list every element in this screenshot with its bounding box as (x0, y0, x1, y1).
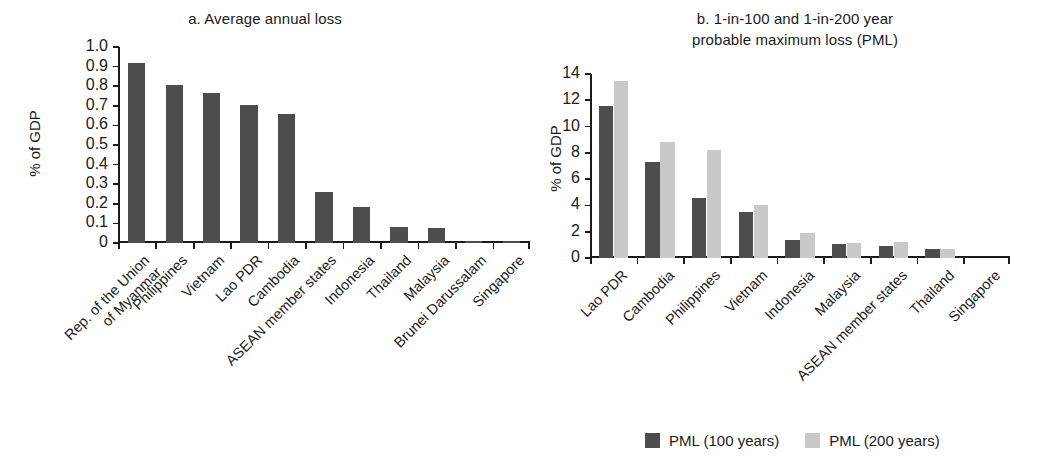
bar (614, 81, 628, 258)
y-axis-tick (113, 203, 119, 205)
x-axis-tick (305, 242, 307, 249)
bar (503, 241, 520, 243)
y-axis-tick (113, 105, 119, 107)
x-axis-tick (418, 242, 420, 249)
bar (692, 198, 706, 258)
bar (203, 93, 220, 243)
legend-label: PML (200 years) (829, 432, 939, 449)
bar (894, 242, 908, 258)
y-axis-tick (113, 164, 119, 166)
bar (940, 249, 954, 258)
bar (660, 142, 674, 258)
bar (832, 244, 846, 258)
bar (599, 106, 613, 258)
bar (785, 240, 799, 258)
x-axis-tick (343, 242, 345, 249)
y-axis-tick-label: 0 (62, 233, 108, 251)
legend: PML (100 years) PML (200 years) (645, 432, 940, 449)
x-axis-tick (917, 257, 919, 264)
x-axis-tick (268, 242, 270, 249)
x-axis-tick (193, 242, 195, 249)
y-axis-tick-label: 0.8 (62, 76, 108, 94)
chart-b-title: b. 1-in-100 and 1-in-200 year probable m… (570, 8, 1020, 50)
chart-b-plot-area: 14121086420Lao PDRCambodiaPhilippinesVie… (590, 74, 1010, 258)
chart-a-plot-area: 1.00.90.80.70.60.50.40.30.20.10Rep. of t… (118, 47, 530, 243)
x-axis-tick (777, 257, 779, 264)
y-axis-tick (585, 73, 591, 75)
x-axis-tick (870, 257, 872, 264)
bar (465, 241, 482, 243)
y-axis-tick (113, 223, 119, 225)
bar (390, 227, 407, 243)
y-axis-tick (585, 231, 591, 233)
y-axis-tick (113, 183, 119, 185)
y-axis-tick-label: 1.0 (62, 37, 108, 55)
x-axis-tick (455, 242, 457, 249)
bar (353, 207, 370, 243)
y-axis-tick (113, 66, 119, 68)
y-axis-tick-label: 0.1 (62, 213, 108, 231)
chart-b-title-line1: b. 1-in-100 and 1-in-200 year (570, 8, 1020, 29)
chart-a-title: a. Average annual loss (0, 8, 530, 29)
bar (278, 114, 295, 243)
y-axis-tick-label: 8 (534, 143, 580, 161)
bar (707, 150, 721, 258)
y-axis-tick-label: 0.7 (62, 96, 108, 114)
x-axis-tick (637, 257, 639, 264)
bar (645, 162, 659, 258)
y-axis-tick (585, 178, 591, 180)
x-axis-tick (590, 257, 592, 264)
bar (128, 63, 145, 243)
y-axis-tick-label: 0.5 (62, 135, 108, 153)
y-axis-tick-label: 0.3 (62, 174, 108, 192)
legend-item-pml-100: PML (100 years) (645, 432, 779, 449)
y-axis-tick (113, 144, 119, 146)
chart-b-title-line2: probable maximum loss (PML) (570, 29, 1020, 50)
legend-swatch-icon (645, 433, 660, 448)
bar (800, 233, 814, 258)
bar (879, 246, 893, 258)
y-axis-tick-label: 0.9 (62, 57, 108, 75)
legend-swatch-icon (805, 433, 820, 448)
bar (925, 249, 939, 258)
x-axis-tick (963, 257, 965, 264)
bar (315, 192, 332, 243)
y-axis-tick-label: 12 (534, 90, 580, 108)
y-axis-tick (113, 85, 119, 87)
legend-label: PML (100 years) (669, 432, 779, 449)
bar (240, 105, 257, 243)
y-axis-tick-label: 6 (534, 169, 580, 187)
legend-item-pml-200: PML (200 years) (805, 432, 939, 449)
bar (754, 205, 768, 258)
y-axis-tick-label: 10 (534, 117, 580, 135)
bar (428, 228, 445, 243)
chart-panel-a: a. Average annual loss % of GDP 1.00.90.… (0, 0, 530, 462)
y-axis-tick-label: 0.6 (62, 115, 108, 133)
x-axis-tick (1008, 257, 1010, 264)
y-axis-tick-label: 0 (534, 248, 580, 266)
x-axis-tick (823, 257, 825, 264)
bar (847, 243, 861, 258)
x-axis-tick (493, 242, 495, 249)
y-axis-tick (585, 152, 591, 154)
y-axis-tick-label: 4 (534, 195, 580, 213)
x-axis-tick (155, 242, 157, 249)
chart-a-y-axis-label: % of GDP (26, 104, 43, 184)
x-axis-tick (730, 257, 732, 264)
bar (739, 212, 753, 258)
x-axis-tick (683, 257, 685, 264)
y-axis-tick-label: 14 (534, 64, 580, 82)
y-axis-tick (113, 125, 119, 127)
bar (166, 85, 183, 243)
y-axis-tick-label: 0.4 (62, 155, 108, 173)
x-axis-tick (230, 242, 232, 249)
y-axis-tick-label: 0.2 (62, 194, 108, 212)
y-axis-tick (113, 46, 119, 48)
x-axis-tick (118, 242, 120, 249)
y-axis-tick (585, 99, 591, 101)
y-axis-tick-label: 2 (534, 222, 580, 240)
y-axis-tick (585, 205, 591, 207)
x-axis-tick (380, 242, 382, 249)
y-axis-tick (585, 126, 591, 128)
chart-panel-b: b. 1-in-100 and 1-in-200 year probable m… (530, 0, 1059, 462)
